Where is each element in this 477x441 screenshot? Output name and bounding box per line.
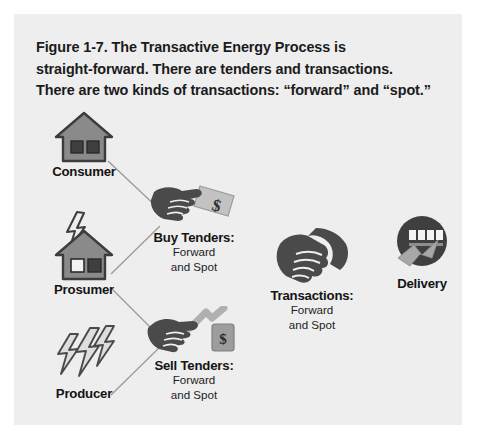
node-sell-tenders-label: Sell Tenders: — [132, 358, 256, 373]
figure-caption: Figure 1-7. The Transactive Energy Proce… — [36, 37, 446, 102]
node-buy-tenders-sub-2: and Spot — [132, 260, 256, 275]
node-producer-label: Producer — [30, 386, 138, 401]
caption-line-1: Figure 1-7. The Transactive Energy Proce… — [36, 37, 446, 59]
node-buy-tenders[interactable]: $ Buy Tenders: Forward and Spot — [132, 182, 256, 274]
node-sell-tenders-sub-1: Forward — [132, 373, 256, 388]
node-sell-tenders-sub-2: and Spot — [132, 388, 256, 403]
node-transactions-sub-1: Forward — [246, 303, 378, 318]
node-buy-tenders-label: Buy Tenders: — [132, 230, 256, 245]
house-icon — [53, 110, 115, 164]
node-sell-tenders[interactable]: $ Sell Tenders: Forward and Spot — [132, 306, 256, 402]
lightning-bolts-icon — [48, 324, 120, 386]
electric-meter-icon — [386, 214, 458, 276]
handshake-with-banknote-icon: $ — [148, 182, 240, 230]
node-transactions-label: Transactions: — [246, 288, 378, 303]
figure-panel: Figure 1-7. The Transactive Energy Proce… — [14, 14, 462, 425]
handshake-icon — [272, 226, 352, 288]
node-transactions[interactable]: Transactions: Forward and Spot — [246, 226, 378, 332]
node-prosumer-label: Prosumer — [34, 282, 134, 297]
caption-line-3: There are two kinds of transactions: “fo… — [36, 80, 446, 102]
node-buy-tenders-sub-1: Forward — [132, 245, 256, 260]
node-prosumer[interactable]: Prosumer — [34, 210, 134, 297]
caption-line-2: straight-forward. There are tenders and … — [36, 59, 446, 81]
node-consumer-label: Consumer — [34, 164, 134, 179]
house-with-lightning-icon — [51, 210, 117, 282]
node-transactions-sub-2: and Spot — [246, 318, 378, 333]
handshake-with-price-tag-icon: $ — [146, 306, 242, 358]
node-delivery-label: Delivery — [370, 276, 462, 291]
node-producer[interactable]: Producer — [30, 324, 138, 401]
node-consumer[interactable]: Consumer — [34, 110, 134, 179]
price-tag-dollar-glyph: $ — [219, 331, 227, 347]
node-delivery[interactable]: Delivery — [370, 214, 462, 291]
